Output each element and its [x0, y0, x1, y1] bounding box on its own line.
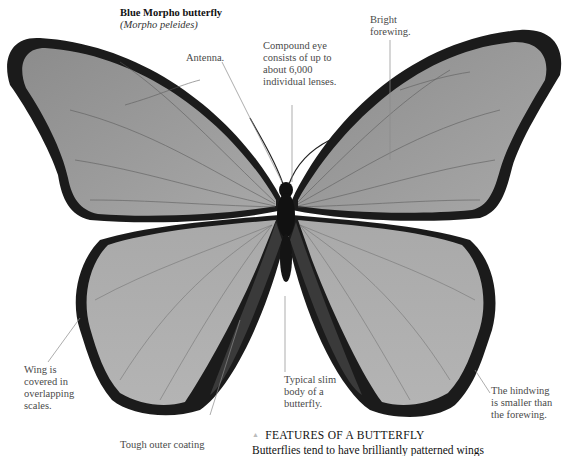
label-bright-forewing: Bright forewing.: [370, 14, 411, 38]
left-forewing: [7, 38, 282, 222]
common-name: Blue Morpho butterfly: [120, 7, 222, 19]
figure-title: Blue Morpho butterfly (Morpho peleides): [120, 7, 222, 31]
label-antenna: Antenna.: [186, 52, 224, 64]
section-heading-text: FEATURES OF A BUTTERFLY: [265, 429, 424, 441]
label-wing-scales: Wing is covered in overlapping scales.: [24, 364, 74, 412]
section-heading: ▲FEATURES OF A BUTTERFLY: [252, 429, 425, 441]
label-outer-coating: Tough outer coating: [120, 439, 204, 451]
label-slim-body: Typical slim body of a butterfly.: [284, 374, 336, 410]
label-compound-eye: Compound eye consists of up to about 6,0…: [263, 40, 337, 88]
left-hindwing: [76, 215, 285, 415]
label-hindwing: The hindwing is smaller than the forewin…: [491, 385, 552, 421]
section-body: Butterflies tend to have brilliantly pat…: [252, 444, 484, 456]
scientific-name: (Morpho peleides): [120, 19, 222, 31]
triangle-up-icon: ▲: [252, 431, 259, 439]
